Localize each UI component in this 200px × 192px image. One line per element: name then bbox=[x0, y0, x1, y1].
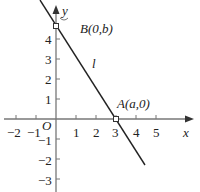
x-axis-arrow-icon bbox=[185, 116, 194, 123]
svg-text:2: 2 bbox=[45, 72, 52, 87]
y-tick-labels: 4 3 2 1 −1 −2 −3 bbox=[38, 32, 52, 188]
point-a-marker bbox=[114, 117, 119, 122]
svg-text:−3: −3 bbox=[38, 173, 52, 188]
x-tick-labels: −2 −1 1 2 3 4 5 bbox=[7, 125, 160, 140]
y-label-arc-icon bbox=[60, 18, 68, 20]
point-b-label: B(0,b) bbox=[80, 21, 113, 36]
x-axis bbox=[4, 115, 194, 123]
y-axis bbox=[53, 5, 61, 192]
point-b-marker bbox=[54, 24, 59, 29]
svg-text:4: 4 bbox=[133, 125, 140, 140]
y-axis-arrow-icon bbox=[53, 5, 60, 14]
x-axis-label: x bbox=[182, 125, 189, 140]
y-axis-label: y bbox=[60, 3, 68, 18]
line-label: l bbox=[92, 56, 96, 71]
svg-text:2: 2 bbox=[93, 125, 100, 140]
svg-text:−2: −2 bbox=[7, 125, 21, 140]
svg-text:1: 1 bbox=[73, 125, 80, 140]
svg-text:3: 3 bbox=[45, 52, 52, 67]
point-a-label: A(a,0) bbox=[116, 96, 150, 111]
coordinate-diagram: y x O l B(0,b) A(a,0) −2 −1 1 2 3 4 5 4 … bbox=[0, 0, 200, 192]
svg-text:3: 3 bbox=[112, 125, 119, 140]
svg-text:−1: −1 bbox=[38, 133, 52, 148]
svg-text:1: 1 bbox=[45, 92, 52, 107]
svg-text:4: 4 bbox=[45, 32, 52, 47]
origin-label: O bbox=[42, 118, 52, 133]
svg-text:5: 5 bbox=[153, 125, 160, 140]
svg-text:−2: −2 bbox=[38, 153, 52, 168]
